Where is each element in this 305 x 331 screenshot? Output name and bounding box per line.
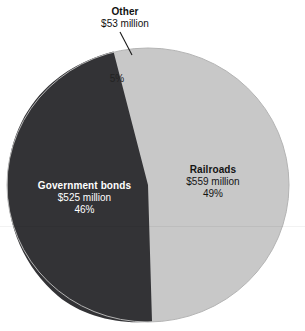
slice-label-government-bonds-value: $525 million	[22, 192, 147, 204]
slice-label-other-value: $53 million	[60, 18, 190, 30]
slice-label-government-bonds: Government bonds $525 million 46%	[22, 180, 147, 215]
slice-label-railroads-value: $559 million	[163, 176, 263, 188]
slice-label-railroads-percent: 49%	[163, 188, 263, 200]
slice-label-other-name: Other	[60, 6, 190, 18]
slice-label-government-bonds-name: Government bonds	[22, 180, 147, 192]
pie-chart-figure: Other $53 million 5% Railroads $559 mill…	[0, 0, 305, 331]
slice-percent-other: 5%	[96, 73, 138, 85]
slice-label-railroads-name: Railroads	[163, 164, 263, 176]
slice-label-government-bonds-percent: 46%	[22, 204, 147, 216]
slice-label-other-percent: 5%	[96, 73, 138, 85]
slice-label-railroads: Railroads $559 million 49%	[163, 164, 263, 199]
slice-label-other: Other $53 million	[60, 6, 190, 30]
scan-artifact-line	[0, 226, 305, 227]
